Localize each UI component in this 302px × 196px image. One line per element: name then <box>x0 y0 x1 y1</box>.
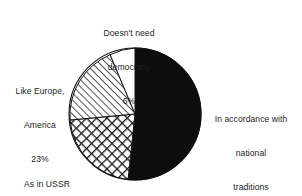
pie-chart: Doesn't need democracy 6% Like Europe, A… <box>0 0 302 196</box>
slice-label-line: Doesn't need <box>83 28 175 39</box>
slice-label-line: Like Europe, <box>2 86 78 97</box>
slice-label-as-in-ussr: As in USSR 15% <box>4 157 90 196</box>
slice-label-line: traditions <box>202 182 300 193</box>
slice-label-line: As in USSR <box>4 179 90 190</box>
slice-label-doesnt-need-democracy: Doesn't need democracy 6% <box>83 6 175 129</box>
slice-label-value: 6% <box>83 96 175 107</box>
slice-label-line: democracy <box>83 62 175 73</box>
slice-label-national-traditions: In accordance with national traditions 5… <box>202 92 300 196</box>
slice-label-line: national <box>202 148 300 159</box>
slice-label-line: In accordance with <box>202 114 300 125</box>
slice-label-line: America <box>2 120 78 131</box>
